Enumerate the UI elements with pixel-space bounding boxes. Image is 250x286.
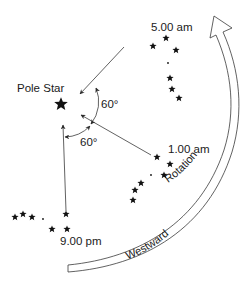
time-label-1am: 1.00 am [168,143,210,155]
pole-star-label: Pole Star [17,82,64,94]
pointer-5am [80,47,124,94]
angle-label-upper: 60° [101,98,118,110]
pole-star-icon [54,97,68,110]
pointer-1am [81,115,151,155]
pointer-9pm [63,125,66,211]
angle-arc-upper [91,88,99,124]
pole-star-rotation-diagram: Rotation Westward Pole Star 60° 60° 5.00… [0,0,250,286]
time-label-9pm: 9.00 pm [60,235,102,247]
angle-label-lower: 60° [80,136,97,148]
time-label-5am: 5.00 am [151,21,193,33]
star-pattern-9pm [11,210,70,232]
star-pattern-5am [149,34,182,101]
westward-label: Westward [124,227,171,262]
